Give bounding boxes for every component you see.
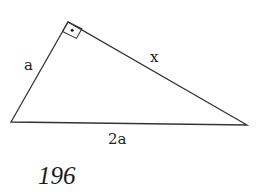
side-label-hypotenuse: 2a [108,132,127,147]
side-label-a: a [24,58,33,73]
side-label-x: x [150,50,158,65]
triangle-outline [11,22,247,125]
page-number: 196 [38,163,76,188]
right-angle-dot [71,29,74,32]
